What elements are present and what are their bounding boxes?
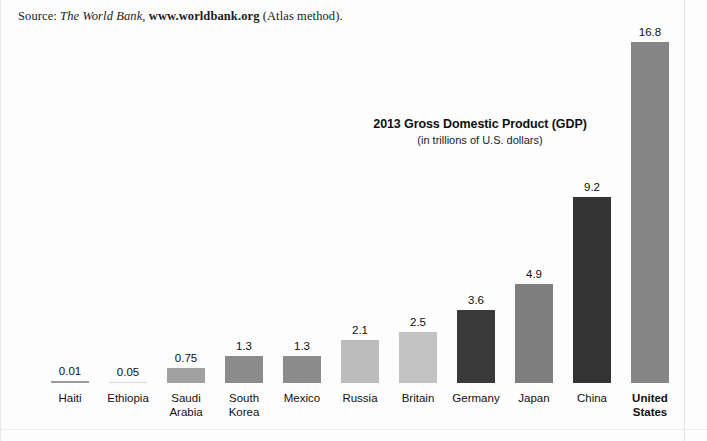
bar-group: 1.3 — [283, 0, 321, 383]
bar-china[interactable] — [573, 197, 611, 383]
bar-value-label: 0.05 — [117, 366, 139, 378]
bar-group: 0.75 — [167, 0, 205, 383]
plot-area: 0.01Haiti0.05Ethiopia0.75Saudi Arabia1.3… — [1, 0, 707, 441]
bar-russia[interactable] — [341, 340, 379, 383]
bar-value-label: 1.3 — [236, 340, 252, 352]
bar-group: 4.9 — [515, 0, 553, 383]
chart-page: Source: The World Bank, www.worldbank.or… — [0, 0, 707, 441]
bar-value-label: 3.6 — [468, 294, 484, 306]
bar-south-korea[interactable] — [225, 356, 263, 383]
bar-value-label: 0.01 — [59, 365, 81, 377]
bar-group: 3.6 — [457, 0, 495, 383]
bar-value-label: 2.1 — [352, 324, 368, 336]
bar-value-label: 0.75 — [175, 352, 197, 364]
bar-value-label: 4.9 — [526, 268, 542, 280]
bar-united-states[interactable] — [631, 42, 669, 383]
bar-group: 2.1 — [341, 0, 379, 383]
bar-britain[interactable] — [399, 332, 437, 383]
bar-germany[interactable] — [457, 310, 495, 383]
bar-group: 0.01 — [51, 0, 89, 383]
bar-value-label: 1.3 — [294, 340, 310, 352]
bar-japan[interactable] — [515, 284, 553, 383]
bar-group: 0.05 — [109, 0, 147, 383]
bar-group: 16.8 — [631, 0, 669, 383]
bar-saudi-arabia[interactable] — [167, 368, 205, 383]
bar-value-label: 2.5 — [410, 316, 426, 328]
bar-ethiopia[interactable] — [109, 382, 147, 383]
bar-group: 2.5 — [399, 0, 437, 383]
bar-group: 1.3 — [225, 0, 263, 383]
category-label-united-states: United States — [615, 391, 685, 419]
bar-value-label: 16.8 — [639, 26, 661, 38]
bar-haiti[interactable] — [51, 381, 89, 383]
bar-mexico[interactable] — [283, 356, 321, 383]
bar-value-label: 9.2 — [584, 181, 600, 193]
bar-group: 9.2 — [573, 0, 611, 383]
